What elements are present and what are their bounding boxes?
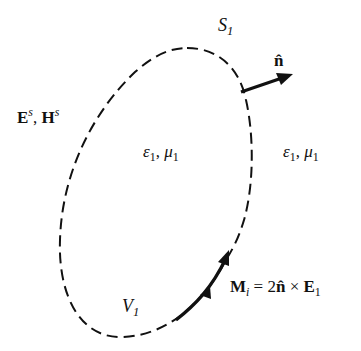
- surface-s1-boundary: [60, 48, 252, 337]
- volume-label-v1: V1: [122, 297, 139, 315]
- inner-medium-label: ε1, μ1: [143, 143, 179, 160]
- magnetic-current-arrow: [176, 250, 229, 320]
- normal-label-n-hat: n̂: [274, 52, 283, 69]
- magnetic-current-equation: Mi = 2n̂ × E1: [230, 278, 321, 295]
- boundary-label-s1: S1: [218, 16, 233, 34]
- diagram-canvas: [0, 0, 361, 351]
- outer-medium-label: ε1, μ1: [283, 143, 319, 160]
- normal-vector-arrow: [241, 73, 293, 92]
- scattered-fields-label: Es, Hs: [17, 109, 59, 126]
